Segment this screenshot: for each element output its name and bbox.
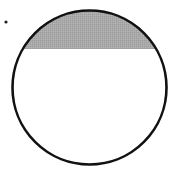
point-marker bbox=[4, 20, 7, 23]
circle-segment-diagram bbox=[0, 0, 175, 173]
